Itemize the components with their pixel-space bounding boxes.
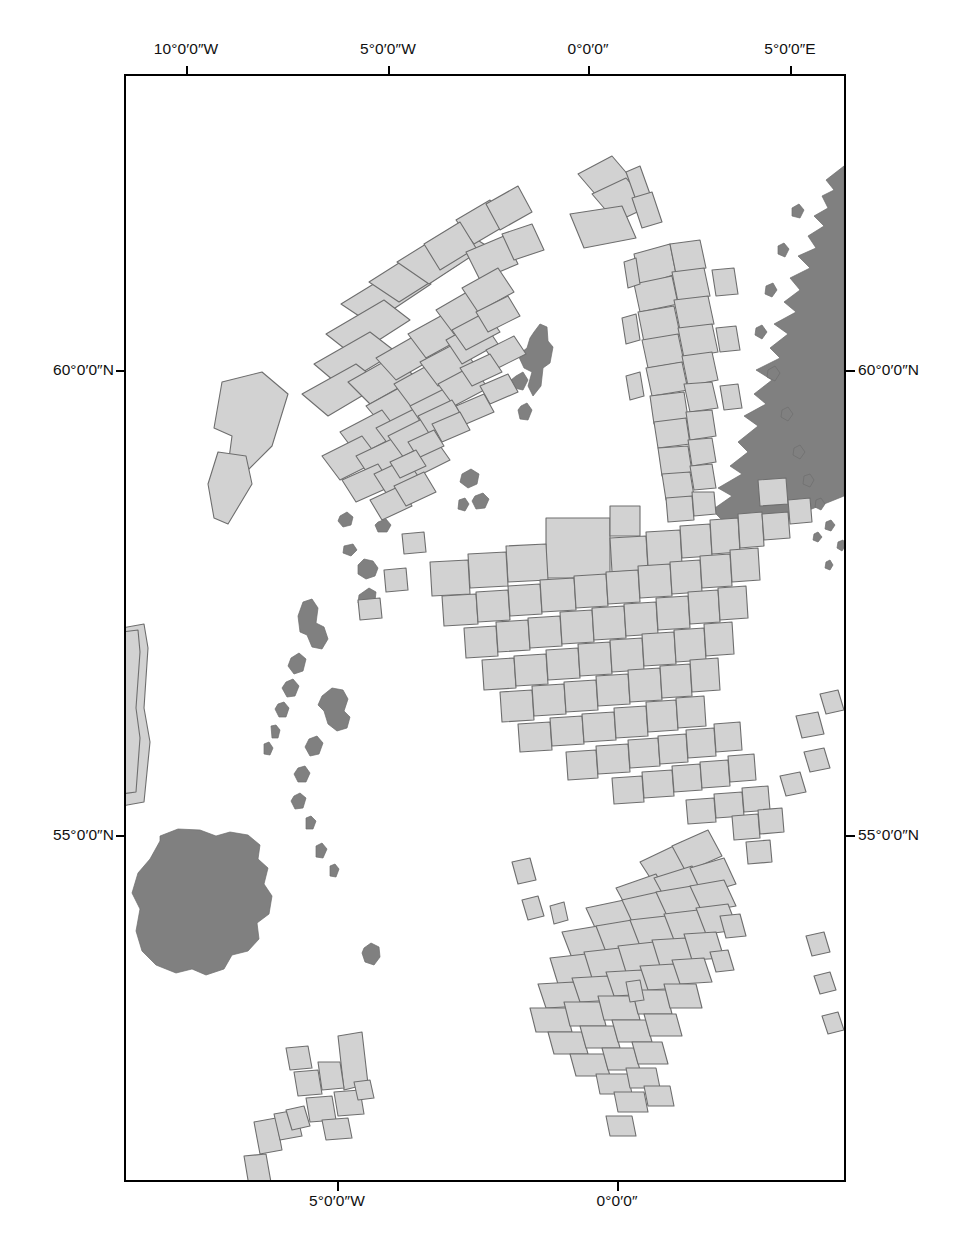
axis-label-bottom-0: 0°0′0″ [596,1192,637,1210]
land-outer-hebrides [264,599,328,755]
blocks-west-of-shetland[interactable] [302,186,544,520]
land-inner-hebrides [291,688,350,877]
blocks-north-of-shetland[interactable] [570,156,662,248]
tick-bottom-0 [617,1182,619,1191]
map-canvas[interactable]: .land{fill:#808080;stroke:#6d6d6d;stroke… [126,76,844,1180]
tick-right-55n [846,835,855,837]
tick-bottom-5w [337,1182,339,1191]
blocks-southern-north-sea[interactable] [530,830,746,1136]
land-isle-of-man [362,943,380,965]
blocks-rockall-trough[interactable] [126,624,150,806]
land-ireland [132,829,272,975]
axis-label-top-0: 0°0′0″ [567,40,608,58]
map-vector-layer: .land{fill:#808080;stroke:#6d6d6d;stroke… [126,76,844,1180]
axis-label-top-10w: 10°0′0″W [154,40,219,58]
tick-right-60n [846,370,855,372]
map-frame: .land{fill:#808080;stroke:#6d6d6d;stroke… [124,74,846,1182]
blocks-northern-north-sea[interactable] [622,240,742,522]
axis-label-bottom-5w: 5°0′0″W [309,1192,365,1210]
axis-label-right-60n: 60°0′0″N [858,361,919,379]
land-orkney [458,469,489,511]
axis-label-left-55n: 55°0′0″N [0,826,114,844]
axis-label-top-5w: 5°0′0″W [360,40,416,58]
blocks-west-of-hebrides[interactable] [208,372,288,524]
land-great-britain [338,512,391,607]
axis-label-right-55n: 55°0′0″N [858,826,919,844]
offshore-licensing-map: 10°0′0″W 5°0′0″W 0°0′0″ 5°0′0″E 5°0′0″W … [0,0,972,1258]
axis-label-top-5e: 5°0′0″E [764,40,816,58]
axis-label-left-60n: 60°0′0″N [0,361,114,379]
blocks-central-north-sea[interactable] [402,478,812,864]
land-shetland [511,324,553,420]
blocks-outer-east[interactable] [780,690,844,796]
